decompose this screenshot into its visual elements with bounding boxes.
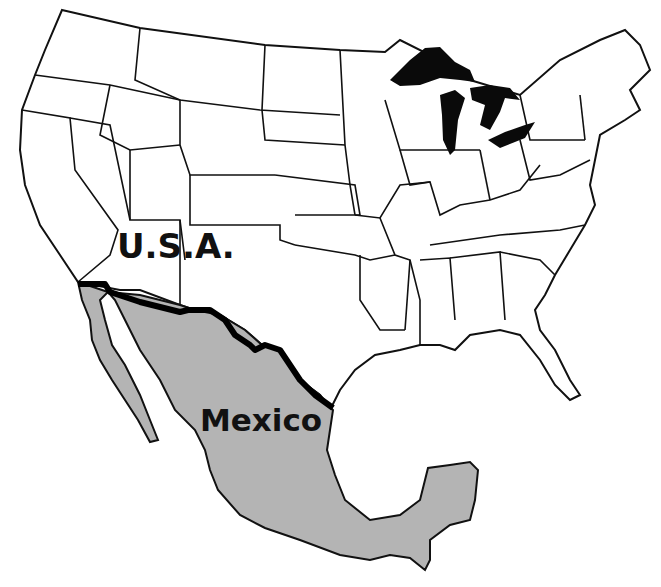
mexico-label: Mexico (200, 402, 322, 438)
usa-label: U.S.A. (117, 226, 235, 266)
map-svg (0, 0, 661, 587)
us-mexico-map: U.S.A. Mexico (0, 0, 661, 587)
